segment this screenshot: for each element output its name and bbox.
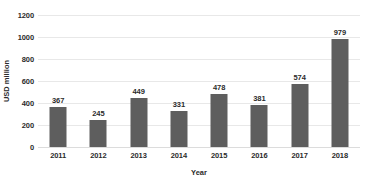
bar[interactable] bbox=[130, 98, 147, 147]
y-axis-tick-label: 1200 bbox=[0, 11, 34, 20]
bar[interactable] bbox=[211, 94, 228, 147]
bar[interactable] bbox=[90, 120, 107, 147]
x-axis-tick-label: 2014 bbox=[171, 151, 187, 160]
bar-slot: 574 bbox=[280, 15, 320, 147]
x-axis-tick-label: 2012 bbox=[90, 151, 106, 160]
bar-value-label: 331 bbox=[173, 100, 185, 109]
y-axis-tick-label: 800 bbox=[0, 55, 34, 64]
x-axis-tick-label: 2018 bbox=[332, 151, 348, 160]
x-axis-tick-label: 2015 bbox=[211, 151, 227, 160]
bar[interactable] bbox=[251, 105, 268, 147]
bar-value-label: 381 bbox=[253, 94, 265, 103]
bar-value-label: 478 bbox=[213, 83, 225, 92]
bar-slot: 367 bbox=[38, 15, 78, 147]
x-axis-title: Year bbox=[191, 168, 207, 177]
bar-slot: 245 bbox=[78, 15, 118, 147]
y-axis-tick-label: 1000 bbox=[0, 33, 34, 42]
axis-baseline bbox=[38, 147, 360, 148]
y-axis-tick-label: 0 bbox=[0, 143, 34, 152]
bar-value-label: 245 bbox=[92, 109, 104, 118]
bar-value-label: 367 bbox=[52, 96, 64, 105]
x-axis-tick-label: 2011 bbox=[50, 151, 66, 160]
x-axis-tick-label: 2016 bbox=[251, 151, 267, 160]
y-axis-tick-label: 400 bbox=[0, 99, 34, 108]
bar[interactable] bbox=[291, 84, 308, 147]
bar-slot: 478 bbox=[199, 15, 239, 147]
bar[interactable] bbox=[50, 107, 67, 147]
x-axis-tick-label: 2017 bbox=[291, 151, 307, 160]
plot-area: 367245449331478381574979 bbox=[38, 15, 360, 147]
bar-value-label: 449 bbox=[133, 87, 145, 96]
bar-slot: 449 bbox=[119, 15, 159, 147]
y-axis-tick-label: 600 bbox=[0, 77, 34, 86]
bar[interactable] bbox=[331, 39, 348, 147]
bar-value-label: 979 bbox=[334, 28, 346, 37]
x-axis-tick-label: 2013 bbox=[130, 151, 146, 160]
bar-slot: 331 bbox=[159, 15, 199, 147]
y-axis-tick-label: 200 bbox=[0, 121, 34, 130]
bar[interactable] bbox=[170, 111, 187, 147]
bar-slot: 979 bbox=[320, 15, 360, 147]
bar-value-label: 574 bbox=[294, 73, 306, 82]
bar-chart-screenshot: USD million 367245449331478381574979 Yea… bbox=[0, 0, 368, 186]
bar-slot: 381 bbox=[239, 15, 279, 147]
